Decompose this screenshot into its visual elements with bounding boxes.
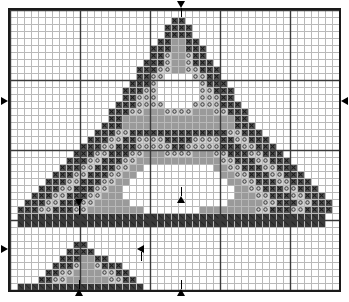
center-marker-mid-small-icon [75, 199, 83, 206]
center-marker-top-stem [181, 8, 182, 17]
center-marker-bottom-main-icon [177, 289, 185, 296]
center-marker-inner-lower-stem [141, 252, 142, 261]
pattern-grid-canvas[interactable] [10, 10, 339, 290]
cross-stitch-chart-root: Pyramid Motif Cross-Stitch Chart [0, 0, 349, 302]
center-marker-left-lower-icon [1, 245, 8, 253]
center-marker-bottom-main-stem [181, 280, 182, 289]
center-marker-mid-main-icon [177, 196, 185, 203]
center-marker-right-upper-icon [341, 97, 348, 105]
center-marker-bottom-small-icon [75, 289, 83, 296]
center-marker-left-upper-icon [1, 97, 8, 105]
center-marker-mid-main-stem [181, 187, 182, 196]
pattern-grid-frame [8, 8, 341, 292]
center-marker-bottom-small-stem [79, 280, 80, 289]
center-marker-top-icon [177, 1, 185, 8]
center-marker-mid-small-stem [79, 206, 80, 215]
